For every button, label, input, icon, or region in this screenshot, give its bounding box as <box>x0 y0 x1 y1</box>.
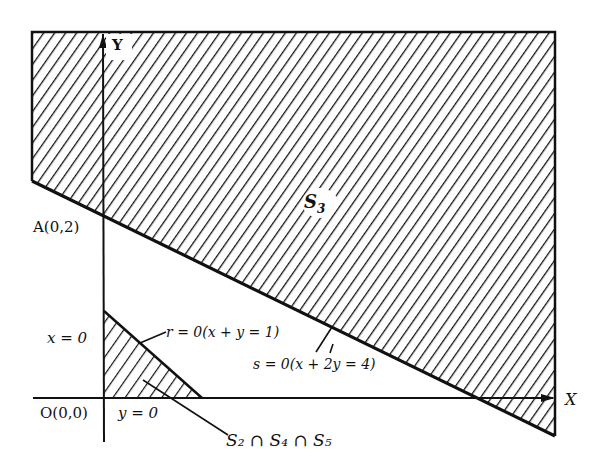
diagram-canvas <box>0 0 606 474</box>
line-r-label: r = 0(x + y = 1) <box>166 325 279 339</box>
line-s-label: s = 0(x + 2y = 4) <box>253 357 376 371</box>
s3-label: S3 <box>304 193 325 215</box>
y-eq-0-label: y = 0 <box>118 406 158 421</box>
origin-label: O(0,0) <box>40 406 88 421</box>
s3-label-main: S <box>304 191 317 212</box>
x-eq-0-label: x = 0 <box>47 331 87 346</box>
point-a-label: A(0,2) <box>33 220 79 235</box>
x-axis-label: X <box>565 392 576 408</box>
leader-line-s <box>316 327 332 352</box>
intersection-label: S₂ ∩ S₄ ∩ S₅ <box>226 432 332 449</box>
s3-label-sub: 3 <box>317 202 325 216</box>
leader-line-r <box>140 332 166 343</box>
leader-line-s <box>330 344 333 353</box>
y-axis-label: Y <box>112 38 123 53</box>
